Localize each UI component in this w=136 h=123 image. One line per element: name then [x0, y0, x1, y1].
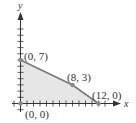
label-0-7: (0, 7) [24, 50, 48, 63]
feasible-region-chart: y x (0, 7) (8, 3) (12, 0) (0, 0) [0, 0, 136, 123]
label-12-0: (12, 0) [92, 89, 122, 102]
x-axis-label: x [123, 98, 129, 109]
point-8-3 [70, 83, 75, 88]
y-axis-arrow-icon [18, 12, 24, 20]
label-0-0: (0, 0) [25, 108, 49, 121]
point-12-0 [96, 101, 101, 106]
label-8-3: (8, 3) [67, 71, 91, 84]
point-0-0 [18, 101, 23, 106]
point-0-7 [18, 58, 23, 63]
y-axis-label: y [17, 0, 23, 11]
x-axis-arrow-icon [113, 101, 121, 107]
